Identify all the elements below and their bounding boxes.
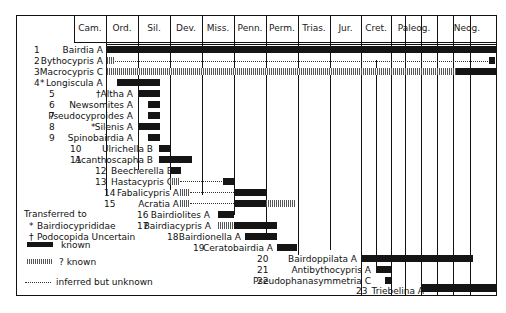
range-known-bythocypris <box>489 57 495 64</box>
row-2-num: 2 <box>34 56 40 66</box>
range-known-pseudophanasymmetria <box>385 277 391 284</box>
row-11-name: Acanthoscapha B <box>75 155 153 165</box>
col-line-neog <box>437 15 438 296</box>
row-22-name: Pseudophanasymmetria C <box>253 276 371 286</box>
range-known-bairdoppilata <box>361 255 473 262</box>
row-13-name: Hastacypris C <box>111 177 173 187</box>
header-jur: Jur. <box>330 18 361 38</box>
row-12-num: 12 <box>95 166 106 176</box>
range-known-ceratobairdia <box>277 244 297 251</box>
row-5-num: 5 <box>49 89 55 99</box>
row-3-name: Macrocypris C <box>40 67 103 77</box>
header-perm: Perm. <box>266 18 298 38</box>
row-1-name: Bairdia A <box>63 45 103 55</box>
row-18-name: Bairdionella A <box>179 232 241 242</box>
col-line-paleog-sub2 <box>421 15 422 296</box>
col-line-miss <box>202 15 203 195</box>
legend-inferred-label: inferred but unknown <box>56 277 153 287</box>
range-known-triebelina <box>421 284 497 291</box>
range-known-acanthoscapha <box>159 156 192 163</box>
row-17-name: Bairdiacypris A <box>144 221 211 231</box>
row-15-num: 15 <box>104 199 115 209</box>
row-6-num: 6 <box>49 100 55 110</box>
range-known-longiscula <box>117 79 160 86</box>
row-8-num: 8 <box>49 122 55 132</box>
row-19-name: Ceratobairdia A <box>203 243 273 253</box>
legend-known-swatch <box>27 242 53 247</box>
range-known-ulrichella <box>159 145 170 152</box>
row-6-name: Newsomites A <box>69 100 133 110</box>
stratigraphic-range-chart: Cam. Ord. Sil. Dev. Miss. Penn. Perm. Tr… <box>0 0 506 313</box>
range-known-fabalicypris <box>234 189 266 196</box>
header-sil: Sil. <box>138 18 170 38</box>
header-ord: Ord. <box>106 18 138 38</box>
row-7-name: Pseudocyproides A <box>48 111 133 121</box>
row-9-name: Spinobairdia A <box>68 133 133 143</box>
row-18-num: 18 <box>167 232 178 242</box>
row-21-name: Antibythocypris A <box>291 265 371 275</box>
legend-known-label: known <box>61 240 91 250</box>
col-line-dev <box>170 15 171 190</box>
row-21-num: 21 <box>257 265 268 275</box>
range-questionable-bythocypris <box>107 57 115 64</box>
range-inferred-bythocypris <box>115 61 488 62</box>
row-1-num: 1 <box>34 45 40 55</box>
legend-questionable-swatch <box>27 259 53 264</box>
col-line-paleog <box>391 15 392 296</box>
range-known-hastacypris <box>223 178 234 185</box>
header-divider-left <box>16 42 74 43</box>
range-questionable-bairdiacypris <box>218 222 234 229</box>
row-23-num: 23 <box>356 286 367 296</box>
legend-dagger-mark: † <box>29 232 34 242</box>
range-known-newsomites <box>148 101 160 108</box>
range-known-bairdiolites <box>218 211 234 218</box>
range-known-bairdionella <box>245 233 277 240</box>
row-2-name: Bythocypris A <box>41 56 103 66</box>
col-line-sil <box>138 15 139 75</box>
row-10-num: 10 <box>70 144 81 154</box>
legend-inferred-swatch <box>25 282 51 283</box>
col-line-paleog-sub1 <box>405 15 406 296</box>
legend-transferred-to: Transferred to <box>24 209 87 219</box>
col-line-cret <box>361 15 362 296</box>
range-inferred-acratia <box>190 203 234 204</box>
range-inferred-hastacypris <box>180 181 222 182</box>
row-23-name: Triebelina A <box>372 286 424 296</box>
range-known-silenis <box>138 123 160 130</box>
row-14-num: 14 <box>104 188 115 198</box>
row-10-name: Ulrichella B <box>102 144 153 154</box>
row-4-mark: * <box>40 78 45 88</box>
row-16-name: Bairdiolites A <box>151 210 210 220</box>
header-miss: Miss. <box>202 18 234 38</box>
row-20-num: 20 <box>257 254 268 264</box>
col-line-neog-sub2 <box>470 15 471 296</box>
range-known-antibythocypris <box>376 266 391 273</box>
legend-star-note: Bairdiocyprididae <box>37 221 116 231</box>
row-4-name: Longiscula A <box>46 78 103 88</box>
range-known-spinobairdia <box>148 134 160 141</box>
row-14-name: Fabalicypris A <box>117 188 179 198</box>
col-line-neog-sub1 <box>453 15 454 296</box>
range-known-bairdia <box>107 46 497 53</box>
range-known-pseudocyproides <box>148 112 160 119</box>
row-13-num: 13 <box>95 177 106 187</box>
row-4-num: 4 <box>34 78 40 88</box>
range-known-macrocypris <box>456 68 497 75</box>
header-paleog: Paleog. <box>391 18 437 38</box>
row-5-name: Altha A <box>101 89 133 99</box>
row-16-num: 16 <box>137 210 148 220</box>
col-line-cret-inner <box>376 60 377 268</box>
row-12-name: Beecherella B <box>111 166 173 176</box>
header-cam: Cam. <box>74 18 106 38</box>
row-8-name: Silenis A <box>95 122 133 132</box>
header-cret: Cret. <box>361 18 391 38</box>
header-dev: Dev. <box>170 18 202 38</box>
range-questionable-macrocypris <box>107 68 456 75</box>
header-neog: Neog. <box>437 18 497 38</box>
row-20-name: Bairdoppilata A <box>288 254 357 264</box>
range-known-altha <box>138 90 160 97</box>
range-known-acratia <box>234 200 266 207</box>
triebelina-baseline <box>421 291 497 292</box>
col-line-penn <box>234 15 235 215</box>
header-trias: Trias. <box>298 18 330 38</box>
